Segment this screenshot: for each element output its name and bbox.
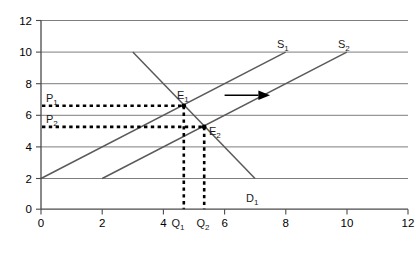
equilibrium-label-e1: E1 <box>177 89 189 104</box>
y-tick-label-10: 10 <box>19 46 32 58</box>
y-axis-ticks-group: 12 10 8 6 4 2 0 <box>19 15 41 216</box>
price-label-p1-sub: 1 <box>53 98 58 107</box>
equilibrium-label-e2-base: E <box>209 125 216 137</box>
y-tick-label-4: 4 <box>26 141 33 153</box>
price-label-p2-sub: 2 <box>53 119 58 128</box>
x-tick-label-2: 2 <box>99 217 105 229</box>
quantity-label-q2-sub: 2 <box>205 223 210 232</box>
curve-label-d1-base: D <box>246 192 254 204</box>
guide-lines-group <box>42 106 204 209</box>
x-tick-label-10: 10 <box>341 217 354 229</box>
equilibrium-label-e1-sub: 1 <box>184 95 189 104</box>
supply-shift-arrow <box>225 91 270 100</box>
equilibrium-marker-e2 <box>202 125 207 130</box>
quantity-label-q1-sub: 1 <box>180 223 185 232</box>
x-axis-ticks-group: 0 2 4 6 8 10 12 <box>38 209 415 229</box>
quantity-label-q1: Q1 <box>171 217 185 232</box>
curve-label-s1-base: S <box>277 38 284 50</box>
y-tick-label-6: 6 <box>26 109 32 121</box>
equilibrium-marker-e1 <box>181 103 186 108</box>
curve-label-s1: S1 <box>277 38 289 53</box>
curve-label-s1-sub: 1 <box>284 44 289 53</box>
x-tick-label-4: 4 <box>160 217 167 229</box>
y-tick-label-0: 0 <box>26 203 32 215</box>
chart-canvas: 12 10 8 6 4 2 0 0 2 4 6 8 <box>0 0 416 254</box>
price-label-p2-base: P <box>46 113 53 125</box>
gridlines-group <box>41 21 408 179</box>
y-tick-label-8: 8 <box>26 78 32 90</box>
price-labels-group: P1 P2 <box>46 92 58 128</box>
curve-labels-group: S1 S2 D1 <box>246 38 350 207</box>
x-tick-label-12: 12 <box>402 217 415 229</box>
curve-label-d1-sub: 1 <box>254 198 259 207</box>
curve-label-s2-sub: 2 <box>345 44 350 53</box>
x-tick-label-6: 6 <box>221 217 227 229</box>
curve-label-d1: D1 <box>246 192 259 207</box>
equilibrium-label-e1-base: E <box>177 89 184 101</box>
y-tick-label-2: 2 <box>26 173 32 185</box>
y-tick-label-12: 12 <box>19 15 32 27</box>
curve-label-s2-base: S <box>338 38 345 50</box>
quantity-label-q2: Q2 <box>196 217 210 232</box>
x-tick-label-0: 0 <box>38 217 44 229</box>
price-label-p1-base: P <box>46 92 53 104</box>
supply-demand-chart: 12 10 8 6 4 2 0 0 2 4 6 8 <box>0 0 416 254</box>
curve-label-s2: S2 <box>338 38 350 53</box>
equilibrium-label-e2-sub: 2 <box>216 131 221 140</box>
x-tick-label-8: 8 <box>283 217 289 229</box>
quantity-labels-group: Q1 Q2 <box>171 217 210 232</box>
